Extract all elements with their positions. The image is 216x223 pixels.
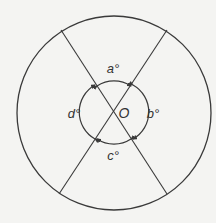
- arc-c: [97, 139, 131, 144]
- angle-c-label: c°: [107, 149, 119, 162]
- angle-a-label: a°: [107, 62, 119, 75]
- center-point-label: O: [119, 106, 130, 120]
- angle-b-label: b°: [147, 107, 159, 120]
- angle-d-label: d°: [68, 107, 80, 120]
- diagram-canvas: [0, 0, 216, 223]
- arc-a: [97, 81, 131, 86]
- arc-d: [79, 85, 95, 139]
